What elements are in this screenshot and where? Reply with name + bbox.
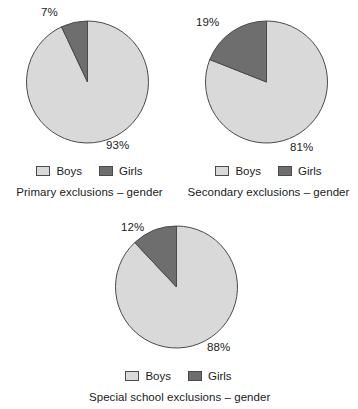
pie-label-boys-primary: 93% (106, 139, 129, 151)
legend-swatch-boys-icon (36, 166, 50, 176)
legend-secondary: Boys Girls (179, 163, 358, 179)
legend-label-girls: Girls (298, 165, 322, 177)
pie-label-boys-special: 88% (207, 341, 230, 353)
pie-chart-secondary-exclusions: 19% 81% Boys Girls Secondary exclusions … (179, 0, 358, 198)
legend-entry-boys: Boys (36, 165, 82, 177)
legend-label-girls: Girls (208, 370, 232, 382)
legend-special: Boys Girls (89, 368, 268, 384)
legend-entry-girls: Girls (99, 165, 143, 177)
chart-caption-secondary: Secondary exclusions – gender (179, 186, 358, 198)
chart-caption-special: Special school exclusions – gender (89, 391, 268, 403)
pie-label-girls-primary: 7% (41, 6, 58, 18)
legend-label-boys: Boys (145, 370, 171, 382)
legend-label-boys: Boys (235, 165, 261, 177)
pie-chart-special-school-exclusions: 12% 88% Boys Girls Special school exclus… (89, 205, 268, 403)
legend-entry-boys: Boys (125, 370, 171, 382)
legend-label-girls: Girls (119, 165, 143, 177)
pie-label-girls-secondary: 19% (196, 16, 219, 28)
legend-entry-girls: Girls (278, 165, 322, 177)
legend-entry-girls: Girls (188, 370, 232, 382)
pie-plot-area-primary: 7% 93% (0, 0, 179, 163)
chart-caption-primary: Primary exclusions – gender (0, 186, 179, 198)
legend-swatch-girls-icon (188, 371, 202, 381)
legend-swatch-girls-icon (278, 166, 292, 176)
pie-graphic-primary (0, 0, 179, 163)
legend-swatch-boys-icon (215, 166, 229, 176)
pie-chart-primary-exclusions: 7% 93% Boys Girls Primary exclusions – g… (0, 0, 179, 198)
pie-graphic-special (89, 205, 268, 368)
legend-swatch-girls-icon (99, 166, 113, 176)
legend-label-boys: Boys (56, 165, 82, 177)
legend-entry-boys: Boys (215, 165, 261, 177)
pie-label-girls-special: 12% (121, 221, 144, 233)
pie-plot-area-secondary: 19% 81% (179, 0, 358, 163)
pie-label-boys-secondary: 81% (290, 141, 313, 153)
legend-swatch-boys-icon (125, 371, 139, 381)
pie-plot-area-special: 12% 88% (89, 205, 268, 368)
legend-primary: Boys Girls (0, 163, 179, 179)
